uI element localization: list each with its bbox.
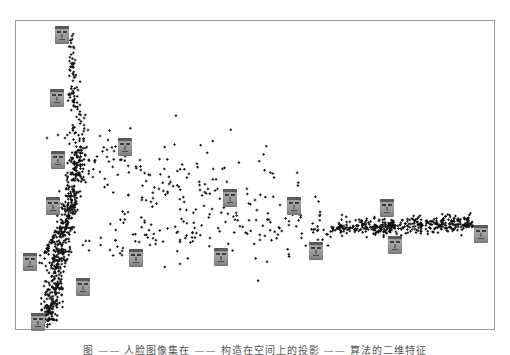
- data-point: [322, 229, 325, 232]
- data-point: [254, 257, 257, 260]
- nose-shape: [61, 34, 63, 38]
- data-point: [235, 212, 238, 215]
- data-point: [207, 188, 210, 191]
- data-point: [201, 194, 204, 197]
- data-point: [149, 244, 152, 247]
- data-point: [280, 230, 283, 233]
- data-point: [341, 235, 344, 238]
- data-point: [82, 168, 85, 171]
- nose-shape: [82, 286, 84, 290]
- data-point: [329, 236, 332, 239]
- data-point: [327, 244, 330, 247]
- face-thumbnail: [388, 236, 402, 254]
- data-point: [64, 213, 67, 216]
- data-point: [141, 196, 144, 199]
- data-point: [69, 96, 72, 99]
- data-point: [69, 131, 72, 134]
- hair-shape: [380, 199, 394, 202]
- data-point: [99, 244, 102, 247]
- data-point: [71, 185, 74, 188]
- data-point: [76, 101, 79, 104]
- data-point: [46, 269, 49, 272]
- data-point: [67, 198, 70, 201]
- data-point: [264, 196, 267, 199]
- hair-shape: [223, 189, 237, 192]
- eye-shape: [78, 283, 82, 285]
- data-point: [288, 255, 291, 258]
- data-point: [425, 228, 428, 231]
- data-point: [76, 197, 79, 200]
- data-point: [68, 143, 71, 146]
- data-point: [54, 313, 57, 316]
- data-point: [69, 230, 72, 233]
- data-point: [211, 208, 214, 211]
- data-point: [68, 254, 71, 257]
- data-point: [288, 224, 291, 227]
- data-point: [83, 127, 86, 130]
- data-point: [365, 217, 368, 220]
- data-point: [123, 213, 126, 216]
- data-point: [199, 234, 202, 237]
- data-point: [63, 265, 66, 268]
- eye-shape: [84, 283, 88, 285]
- data-point: [61, 306, 64, 309]
- data-point: [361, 231, 364, 234]
- data-point: [151, 205, 154, 208]
- data-point: [39, 254, 42, 257]
- data-point: [87, 129, 90, 132]
- data-point: [84, 181, 87, 184]
- data-point: [107, 139, 110, 142]
- data-point: [253, 243, 256, 246]
- data-point: [56, 314, 59, 317]
- data-point: [227, 243, 230, 246]
- data-point: [226, 181, 229, 184]
- nose-shape: [52, 205, 54, 209]
- data-point: [92, 168, 95, 171]
- data-point: [208, 216, 211, 219]
- data-point: [186, 257, 189, 260]
- face-thumbnail: [50, 89, 64, 107]
- data-point: [153, 186, 156, 189]
- mouth-shape: [133, 262, 139, 263]
- data-point: [203, 205, 206, 208]
- data-point: [76, 108, 79, 111]
- data-point: [220, 211, 223, 214]
- data-point: [420, 218, 423, 221]
- data-point: [75, 116, 78, 119]
- data-point: [185, 209, 188, 212]
- data-point: [162, 240, 165, 243]
- data-point: [199, 189, 202, 192]
- mouth-shape: [54, 102, 60, 103]
- mouth-shape: [313, 255, 319, 256]
- data-point: [46, 137, 49, 140]
- data-point: [163, 146, 166, 149]
- data-point: [218, 230, 221, 233]
- data-point: [61, 213, 64, 216]
- data-point: [257, 279, 260, 282]
- data-point: [426, 230, 429, 233]
- data-point: [397, 227, 400, 230]
- nose-shape: [220, 256, 222, 260]
- data-point: [121, 254, 124, 257]
- eye-shape: [39, 318, 43, 320]
- data-point: [456, 229, 459, 232]
- eye-shape: [222, 253, 226, 255]
- data-point: [246, 188, 249, 191]
- data-point: [64, 201, 67, 204]
- data-point: [106, 156, 109, 159]
- hair-shape: [214, 248, 228, 251]
- data-point: [100, 237, 103, 240]
- data-point: [88, 240, 91, 243]
- data-point: [46, 298, 49, 301]
- data-point: [96, 155, 99, 158]
- eye-shape: [131, 254, 135, 256]
- data-point: [46, 326, 49, 329]
- data-point: [116, 174, 119, 177]
- data-point: [406, 220, 409, 223]
- data-point: [77, 134, 80, 137]
- data-point: [92, 176, 95, 179]
- data-point: [412, 225, 415, 228]
- mouth-shape: [291, 210, 297, 211]
- data-point: [195, 232, 198, 235]
- data-point: [231, 249, 234, 252]
